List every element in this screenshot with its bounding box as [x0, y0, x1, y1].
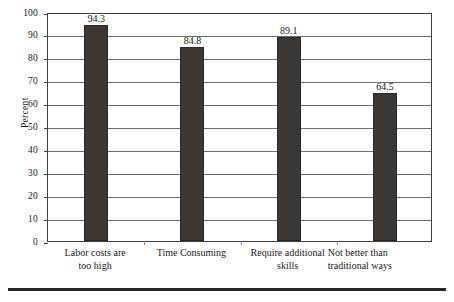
y-axis-tick-label: 30 [28, 169, 38, 179]
y-axis-tick: 50 [44, 128, 48, 129]
y-axis-tick: 30 [44, 174, 48, 175]
plot-area: 0102030405060708090100 94.384.889.164.5 [47, 13, 432, 242]
x-axis-category-label-line: traditional ways [328, 260, 440, 273]
x-axis-category-label: Not better thantraditional ways [328, 247, 440, 272]
x-axis-category-label-line: too high [39, 260, 151, 273]
y-axis-tick-label: 70 [28, 77, 38, 87]
y-axis-tick-label: 40 [28, 146, 38, 156]
y-axis-tick: 90 [44, 36, 48, 37]
y-axis-tick: 10 [44, 220, 48, 221]
bar: 94.3 [84, 25, 108, 241]
bar: 89.1 [277, 37, 301, 241]
y-axis-tick: 40 [44, 151, 48, 152]
y-axis-tick: 60 [44, 105, 48, 106]
y-axis-tick-label: 50 [28, 123, 38, 133]
y-axis-tick-label: 90 [28, 32, 38, 42]
bar-value-label: 94.3 [87, 14, 105, 24]
y-axis-tick: 80 [44, 59, 48, 60]
x-axis-tick [241, 241, 242, 245]
y-axis-tick: 20 [44, 197, 48, 198]
bar: 84.8 [180, 47, 204, 241]
y-axis-tick: 70 [44, 82, 48, 83]
bar-value-label: 64.5 [376, 82, 394, 92]
x-axis-category-label-line: Not better than [328, 247, 440, 260]
bar-chart-figure: Percent 0102030405060708090100 94.384.88… [0, 0, 454, 302]
y-axis-tick-label: 100 [23, 9, 38, 19]
y-axis-tick: 100 [44, 14, 48, 15]
y-axis-tick-label: 60 [28, 100, 38, 110]
bar: 64.5 [373, 93, 397, 241]
x-axis-tick [144, 241, 145, 245]
y-axis-tick-label: 0 [33, 238, 38, 248]
footer-divider [8, 288, 446, 291]
y-axis-tick-label: 10 [28, 215, 38, 225]
x-axis-tick [337, 241, 338, 245]
y-axis-tick: 0 [44, 243, 48, 244]
bar-value-label: 89.1 [280, 26, 298, 36]
y-axis-tick-label: 20 [28, 192, 38, 202]
bar-value-label: 84.8 [184, 36, 202, 46]
y-axis-tick-label: 80 [28, 55, 38, 65]
